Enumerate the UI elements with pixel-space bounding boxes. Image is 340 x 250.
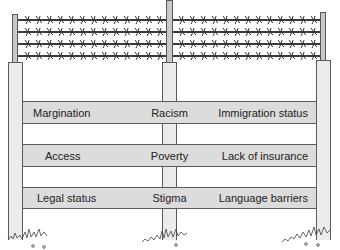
plank-label-right: Immigration status bbox=[218, 107, 308, 119]
left-pole bbox=[12, 14, 18, 64]
middle-pole bbox=[166, 0, 173, 64]
plank-2: Access Poverty Lack of insurance bbox=[22, 144, 317, 167]
plank-label-right: Language barriers bbox=[219, 192, 308, 204]
plank-1: Margination Racism Immigration status bbox=[22, 101, 317, 124]
plank-label-center: Poverty bbox=[151, 150, 188, 162]
plank-label-right: Lack of insurance bbox=[222, 150, 308, 162]
plank-label-center: Racism bbox=[151, 107, 188, 119]
left-post bbox=[8, 62, 23, 240]
plank-label-left: Margination bbox=[33, 107, 90, 119]
right-post bbox=[316, 60, 331, 240]
plank-label-center: Stigma bbox=[152, 192, 186, 204]
plank-label-left: Access bbox=[45, 150, 80, 162]
right-pole bbox=[320, 12, 326, 62]
plank-label-left: Legal status bbox=[37, 192, 96, 204]
plank-3: Legal status Stigma Language barriers bbox=[22, 187, 317, 209]
